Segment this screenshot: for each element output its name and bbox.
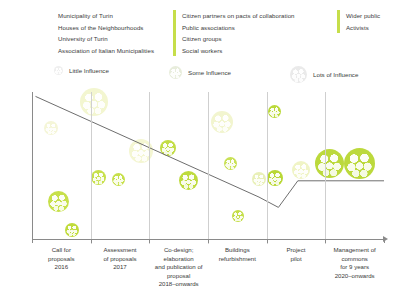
stakeholder-bubble bbox=[252, 172, 266, 186]
category-divider bbox=[91, 92, 92, 244]
x-axis-category-label-line: Co-design; elaboration bbox=[149, 246, 208, 263]
x-axis-category-label: Projectpilot bbox=[267, 246, 326, 263]
x-axis-category-label-line: 2018–onwards bbox=[149, 280, 208, 289]
legend-item: University of Turin bbox=[58, 33, 178, 45]
x-axis-category-label-line: 2020–onwards bbox=[325, 272, 384, 281]
x-axis-category-label-line: and publication of proposal bbox=[149, 263, 208, 280]
x-axis-category-label: Co-design; elaborationand publication of… bbox=[149, 246, 208, 289]
stakeholder-bubble bbox=[65, 223, 79, 237]
category-divider bbox=[208, 92, 209, 244]
x-axis-tick bbox=[267, 239, 268, 243]
x-axis-tick bbox=[384, 239, 385, 243]
influence-size-legend: Little Influence Some Influence Lots of … bbox=[52, 66, 382, 84]
category-divider bbox=[149, 92, 150, 244]
stakeholder-bubble bbox=[315, 149, 344, 178]
x-axis-category-label-line: Call for bbox=[32, 246, 91, 255]
category-divider bbox=[267, 92, 268, 244]
x-axis-category-label-line: Buildings bbox=[208, 246, 267, 255]
legend-item: Wider public bbox=[346, 10, 397, 22]
x-axis-category-label-line: of proposals bbox=[91, 255, 150, 264]
x-axis-category-label-line: pilot bbox=[267, 255, 326, 264]
x-axis-tick bbox=[149, 239, 150, 243]
stakeholder-bubble bbox=[224, 157, 237, 170]
x-axis-category-label: Buildingsrefurbishment bbox=[208, 246, 267, 263]
legend-item: Activists bbox=[346, 22, 397, 34]
legend-influence-lots: Lots of Influence bbox=[290, 66, 358, 83]
stakeholder-bubble bbox=[44, 121, 58, 135]
x-axis-category-label-line: 2017 bbox=[91, 263, 150, 272]
stakeholder-bubble bbox=[80, 88, 108, 116]
stakeholder-bubble bbox=[91, 170, 106, 185]
bubble-icon bbox=[290, 66, 307, 83]
x-axis-category-label-line: refurbishment bbox=[208, 255, 267, 264]
bubble-icon bbox=[54, 66, 63, 75]
stakeholder-bubble bbox=[48, 191, 69, 212]
x-axis-tick bbox=[208, 239, 209, 243]
x-axis-category-label: Management of commonsfor 9 years2020–onw… bbox=[325, 246, 384, 280]
stakeholder-bubble bbox=[160, 140, 176, 156]
x-axis-category-label: Assessmentof proposals2017 bbox=[91, 246, 150, 272]
x-axis-tick bbox=[325, 239, 326, 243]
legend-item: Association of Italian Municipalities bbox=[58, 45, 178, 57]
legend-item: Social workers bbox=[182, 45, 342, 57]
x-axis-category-label-line: 2016 bbox=[32, 263, 91, 272]
legend-influence-label: Little Influence bbox=[69, 67, 109, 74]
stakeholder-bubble bbox=[292, 161, 310, 179]
x-axis-category-label-line: Management of commons bbox=[325, 246, 384, 263]
legend-column-wider-public: Wider public Activists bbox=[337, 10, 397, 33]
stakeholder-bubble bbox=[344, 148, 375, 179]
stakeholder-bubble bbox=[232, 210, 244, 222]
legend-column-citizen-partners: Citizen partners on pacts of collaborati… bbox=[173, 10, 342, 56]
chart-area: Interest Call forproposals2016Assessment… bbox=[0, 88, 397, 289]
stakeholder-bubble bbox=[267, 170, 283, 186]
x-axis-tick bbox=[91, 239, 92, 243]
legend-influence-label: Lots of Influence bbox=[313, 71, 358, 78]
stakeholder-bubble bbox=[112, 173, 125, 186]
bubble-icon bbox=[169, 66, 182, 79]
stakeholder-bubble bbox=[268, 105, 281, 118]
legend-influence-little: Little Influence bbox=[54, 66, 109, 75]
legend-item: Public associations bbox=[182, 22, 342, 34]
x-axis-category-label: Call forproposals2016 bbox=[32, 246, 91, 272]
x-axis-tick bbox=[32, 239, 33, 243]
category-divider bbox=[325, 92, 326, 244]
x-axis-category-label-line: Project bbox=[267, 246, 326, 255]
legend-item: Citizen groups bbox=[182, 33, 342, 45]
stakeholder-bubble bbox=[211, 111, 233, 133]
legend-item: Citizen partners on pacts of collaborati… bbox=[182, 10, 342, 22]
stakeholder-bubble bbox=[179, 171, 198, 190]
x-axis-category-label-line: for 9 years bbox=[325, 263, 384, 272]
legend-item: Municipality of Turin bbox=[58, 10, 178, 22]
x-axis-category-label-line: proposals bbox=[32, 255, 91, 264]
stakeholder-group-legend: Municipality of Turin Houses of the Neig… bbox=[52, 10, 382, 62]
legend-influence-some: Some Influence bbox=[169, 66, 231, 79]
legend-column-institutions: Municipality of Turin Houses of the Neig… bbox=[52, 10, 178, 56]
legend-item: Houses of the Neighbourhoods bbox=[58, 22, 178, 34]
legend-influence-label: Some Influence bbox=[188, 69, 231, 76]
x-axis-category-labels: Call forproposals2016Assessmentof propos… bbox=[32, 246, 384, 288]
x-axis-category-label-line: Assessment bbox=[91, 246, 150, 255]
stakeholder-interest-chart-figure: Municipality of Turin Houses of the Neig… bbox=[0, 0, 397, 289]
